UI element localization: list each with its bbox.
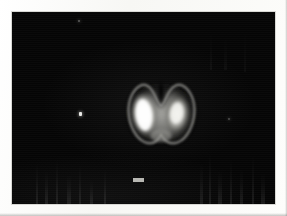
thyroid-gland <box>112 64 210 162</box>
scan-page <box>0 0 287 216</box>
isthmus-bridge <box>150 129 172 142</box>
fiducial-marker-right <box>228 118 230 120</box>
scan-label-marker <box>133 178 144 182</box>
page-edge-shade-bottom <box>0 213 287 216</box>
page-edge-shade-right <box>285 0 287 216</box>
scan-field <box>12 12 275 204</box>
fiducial-marker-upper <box>78 20 80 22</box>
fiducial-marker-left <box>79 112 82 116</box>
thyroid-uptake-map <box>112 64 210 162</box>
